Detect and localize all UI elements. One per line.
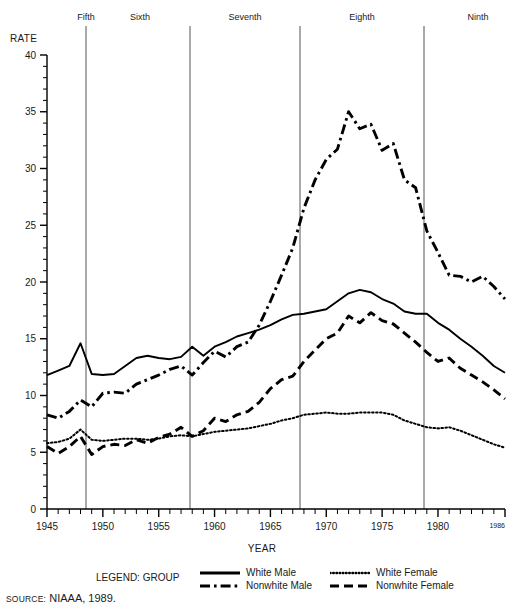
source-prefix: SOURCE: bbox=[6, 594, 46, 604]
x-tick-label: 1950 bbox=[92, 521, 115, 532]
series-line-white-male bbox=[47, 290, 505, 375]
chart-figure: FifthSixthSeventhEighthNinth RATE 051015… bbox=[0, 0, 524, 614]
x-tick-label: 1970 bbox=[315, 521, 338, 532]
legend-swatch-dotted-icon bbox=[330, 568, 370, 578]
legend-swatch-dashed-icon bbox=[330, 581, 370, 591]
series-line-nonwhite-female bbox=[47, 313, 505, 455]
legend-entry-nonwhite-male: Nonwhite Male bbox=[200, 579, 312, 592]
y-tick-label: 0 bbox=[30, 504, 36, 515]
legend-entry-white-female: White Female bbox=[330, 566, 454, 579]
period-label-eighth: Eighth bbox=[349, 12, 375, 22]
legend-column-right: White FemaleNonwhite Female bbox=[330, 566, 454, 592]
period-label-sixth: Sixth bbox=[130, 12, 150, 22]
legend-label: Nonwhite Female bbox=[376, 580, 454, 591]
y-axis: 0510152025303540 bbox=[25, 50, 47, 515]
period-label-ninth: Ninth bbox=[467, 12, 488, 22]
y-tick-label: 10 bbox=[25, 390, 37, 401]
series-line-white-female bbox=[47, 413, 505, 448]
legend-swatch-dashdot-icon bbox=[200, 581, 240, 591]
source-text: NIAAA, 1989. bbox=[49, 592, 116, 604]
y-tick-label: 25 bbox=[25, 220, 37, 231]
y-tick-label: 40 bbox=[25, 50, 37, 61]
y-tick-label: 5 bbox=[30, 447, 36, 458]
y-axis-title: RATE bbox=[10, 33, 37, 44]
legend-entry-white-male: White Male bbox=[200, 566, 312, 579]
y-tick-label: 30 bbox=[25, 163, 37, 174]
x-axis-title: YEAR bbox=[0, 543, 524, 554]
legend-label: White Male bbox=[246, 567, 296, 578]
source-note: SOURCE: NIAAA, 1989. bbox=[6, 592, 116, 604]
period-label-fifth: Fifth bbox=[77, 12, 95, 22]
legend-swatch-solid-icon bbox=[200, 568, 240, 578]
legend-label: White Female bbox=[376, 567, 438, 578]
line-chart-plot: 0510152025303540 19451950195519601965197… bbox=[0, 0, 524, 545]
period-divider-lines bbox=[86, 26, 424, 509]
legend-label: Nonwhite Male bbox=[246, 580, 312, 591]
legend-title: LEGEND: GROUP bbox=[96, 572, 179, 583]
x-tick-label: 1960 bbox=[203, 521, 226, 532]
legend-column-left: White MaleNonwhite Male bbox=[200, 566, 312, 592]
data-series-group bbox=[47, 112, 505, 455]
x-tick-label: 1955 bbox=[148, 521, 171, 532]
x-tick-label: 1975 bbox=[371, 521, 394, 532]
legend-entry-nonwhite-female: Nonwhite Female bbox=[330, 579, 454, 592]
x-tick-label: 1945 bbox=[36, 521, 59, 532]
x-axis: 194519501955196019651970197519801986 bbox=[36, 509, 505, 532]
y-tick-label: 20 bbox=[25, 277, 37, 288]
y-tick-label: 15 bbox=[25, 333, 37, 344]
period-label-seventh: Seventh bbox=[228, 12, 261, 22]
x-tick-label: 1986 bbox=[489, 522, 505, 529]
x-tick-label: 1965 bbox=[259, 521, 282, 532]
x-tick-label: 1980 bbox=[427, 521, 450, 532]
y-tick-label: 35 bbox=[25, 106, 37, 117]
